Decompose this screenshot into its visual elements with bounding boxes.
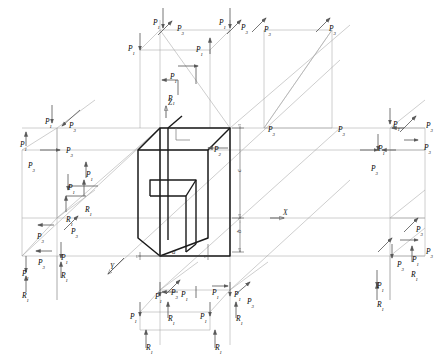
force-label: P1: [86, 163, 93, 182]
force-label: P1: [170, 65, 177, 84]
force-label: P1: [234, 283, 241, 302]
force-label: P1: [45, 110, 52, 129]
force-label-body: P2: [214, 138, 221, 157]
force-label: P3: [37, 225, 44, 244]
symbol-subscript: 1: [241, 321, 243, 326]
reaction-label: R1: [168, 307, 175, 326]
force-label: P3: [424, 136, 431, 155]
force-label: P3: [171, 281, 178, 300]
symbol-subscript: 1: [90, 212, 92, 217]
symbol-subscript: 3: [421, 232, 423, 237]
symbol-subscript: 3: [376, 171, 378, 176]
force-label: P3: [397, 253, 404, 272]
symbol-subscript: 3: [431, 128, 433, 133]
symbol-subscript: 3: [42, 239, 44, 244]
force-label: P3: [66, 139, 73, 158]
symbol-subscript: 3: [343, 132, 345, 137]
reaction-label: R1: [85, 198, 92, 217]
symbol-subscript: 1: [133, 51, 135, 56]
force-label: P1: [378, 137, 385, 156]
force-arrows: [26, 8, 418, 348]
symbol-subscript: 3: [74, 128, 76, 133]
dimension-label-b: b: [236, 230, 243, 234]
symbol-subscript: 1: [173, 321, 175, 326]
symbol-subscript: 1: [383, 151, 385, 156]
dimension-lines: [140, 128, 244, 260]
symbol-subscript: 1: [50, 124, 52, 129]
symbol-subscript: 1: [160, 299, 162, 304]
symbol-subscript: 3: [43, 265, 45, 270]
symbol-subscript: 3: [76, 234, 78, 239]
reaction-label: R1: [22, 284, 29, 303]
force-label: P1: [128, 37, 135, 56]
force-label: P1: [181, 283, 188, 302]
force-label: P3: [426, 240, 433, 259]
force-label: P1: [68, 176, 75, 195]
reaction-label: R1: [411, 263, 418, 282]
force-label: P3: [69, 114, 76, 133]
reaction-label: R1: [215, 336, 222, 355]
force-label: P3: [241, 16, 248, 35]
figure-canvas: Z X Y a b c P2 P1P3P1P3P3P3P1P1P1P1P1P3P…: [0, 0, 447, 359]
symbol-subscript: 1: [239, 297, 241, 302]
symbol-subscript: 1: [25, 147, 27, 152]
force-label: P3: [371, 157, 378, 176]
symbol-subscript: 1: [205, 319, 207, 324]
force-label: P3: [268, 118, 275, 137]
symbol-subscript: 1: [73, 190, 75, 195]
force-label: P3: [426, 114, 433, 133]
body-inner-slot: [150, 116, 196, 252]
force-label-sub: 2: [219, 152, 221, 157]
force-label: P1: [130, 305, 137, 324]
symbol-subscript: 3: [429, 150, 431, 155]
force-label: P3: [71, 220, 78, 239]
force-label: P1: [20, 133, 27, 152]
symbol-subscript: 1: [398, 127, 400, 132]
symbol-subscript: 1: [66, 278, 68, 283]
force-label: P1: [393, 113, 400, 132]
force-label: P3: [177, 17, 184, 36]
force-label: P3: [38, 251, 45, 270]
force-label: P3: [416, 218, 423, 237]
symbol-subscript: 1: [175, 79, 177, 84]
construction-lines: [22, 20, 425, 345]
force-label: P3: [329, 17, 336, 36]
force-label: P1: [219, 11, 226, 30]
dimension-label-a: a: [172, 249, 176, 256]
symbol-subscript: 3: [252, 304, 254, 309]
force-label: P1: [377, 274, 384, 293]
symbol-subscript: 1: [201, 52, 203, 57]
reaction-label: R1: [61, 264, 68, 283]
force-label: P1: [196, 38, 203, 57]
symbol-subscript: 1: [382, 307, 384, 312]
symbol-subscript: 1: [151, 350, 153, 355]
force-label: P1: [155, 285, 162, 304]
force-label: P1: [153, 11, 160, 30]
force-label: P1: [61, 246, 68, 265]
force-label: P1: [168, 87, 175, 106]
dimension-label-c: c: [236, 169, 243, 172]
symbol-subscript: 1: [220, 350, 222, 355]
symbol-subscript: 1: [186, 297, 188, 302]
symbol-subscript: 1: [91, 177, 93, 182]
reaction-label: R1: [377, 293, 384, 312]
symbol-subscript: 3: [269, 32, 271, 37]
symbol-subscript: 1: [158, 25, 160, 30]
symbol-subscript: 3: [334, 31, 336, 36]
symbol-subscript: 3: [431, 254, 433, 259]
symbol-subscript: 1: [173, 101, 175, 106]
symbol-subscript: 3: [246, 30, 248, 35]
symbol-subscript: 3: [176, 295, 178, 300]
symbol-subscript: 3: [71, 153, 73, 158]
force-label: P1: [200, 305, 207, 324]
symbol-subscript: 1: [217, 295, 219, 300]
force-label: P3: [247, 290, 254, 309]
force-label: P1: [212, 281, 219, 300]
force-label: P3: [338, 118, 345, 137]
symbol-subscript: 3: [182, 31, 184, 36]
symbol-subscript: 3: [402, 267, 404, 272]
symbol-subscript: 1: [27, 276, 29, 281]
symbol-subscript: 3: [273, 132, 275, 137]
reaction-label: R1: [236, 307, 243, 326]
symbol-subscript: 1: [135, 319, 137, 324]
